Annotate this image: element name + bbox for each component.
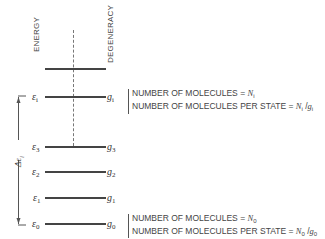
delta-energy-label: Δεi xyxy=(13,156,25,167)
degeneracy-symbol-0: g0 xyxy=(107,219,116,232)
energy-level-0 xyxy=(45,223,106,225)
note-level-0: NUMBER OF MOLECULES = N0 NUMBER OF MOLEC… xyxy=(128,214,317,238)
energy-level-2 xyxy=(45,171,106,173)
energy-level-i xyxy=(45,96,106,98)
degeneracy-symbol-2: g2 xyxy=(107,167,116,180)
degeneracy-symbol-1: g1 xyxy=(107,193,116,206)
energy-level-3 xyxy=(45,146,106,148)
degeneracy-axis-label: DEGENERACY xyxy=(106,5,115,63)
note-level-0-line2: NUMBER OF MOLECULES PER STATE = N0 /g0 xyxy=(132,227,317,239)
note-level-i: NUMBER OF MOLECULES = Ni NUMBER OF MOLEC… xyxy=(128,89,313,114)
energy-axis-label: ENERGY xyxy=(32,17,41,52)
dashed-continuation-line xyxy=(73,30,74,146)
note-level-i-line2: NUMBER OF MOLECULES PER STATE = Ni /gi xyxy=(132,102,313,115)
degeneracy-symbol-i: gi xyxy=(107,92,114,105)
degeneracy-symbol-3: g3 xyxy=(107,142,116,155)
energy-symbol-1: ε1 xyxy=(33,193,40,206)
energy-symbol-3: ε3 xyxy=(32,142,39,155)
energy-level-top xyxy=(45,68,106,70)
energy-level-1 xyxy=(45,197,106,199)
energy-symbol-0: ε0 xyxy=(32,219,39,232)
energy-symbol-i: εi xyxy=(32,92,38,105)
energy-symbol-2: ε2 xyxy=(32,167,39,180)
